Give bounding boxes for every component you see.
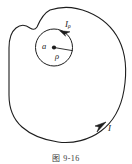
radius-label: ρ [55,52,59,61]
inner-current-label-subscript: ρ [68,23,71,29]
outer-loop-arrowhead-icon [95,122,106,132]
figure-caption: 图 9-16 [0,152,132,164]
outer-current-label: I [108,124,111,133]
inner-current-label: Iρ [65,20,71,30]
figure-container: Iρ a ρ I 图 9-16 [0,0,132,164]
center-point-label: a [42,42,46,51]
center-point-dot [52,45,56,49]
